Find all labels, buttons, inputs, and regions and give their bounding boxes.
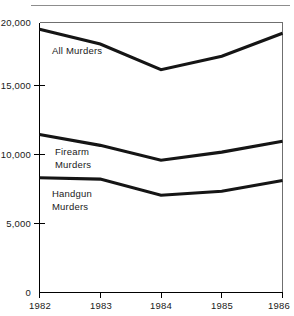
firearm-murders-label-line1: Firearm <box>55 146 89 157</box>
ytick-label-10000: 10,000 <box>1 149 31 160</box>
ytick-label-0: 0 <box>26 287 31 298</box>
handgun-murders-label-line2: Murders <box>52 201 88 212</box>
xtick-label-1984: 1984 <box>150 300 172 311</box>
firearm-murders-label-line2: Murders <box>55 159 91 170</box>
chart-canvas: 20,000 15,000 10,000 5,000 0 1982 1983 1… <box>0 0 294 316</box>
ytick-label-15000: 15,000 <box>1 80 31 91</box>
xtick-label-1982: 1982 <box>29 300 51 311</box>
xtick-label-1983: 1983 <box>90 300 112 311</box>
ytick-label-20000: 20,000 <box>1 17 31 28</box>
line-chart-figure: 20,000 15,000 10,000 5,000 0 1982 1983 1… <box>0 0 294 316</box>
xtick-label-1985: 1985 <box>211 300 233 311</box>
axes <box>40 23 283 293</box>
handgun-murders-label-line1: Handgun <box>52 188 92 199</box>
all-murders-label: All Murders <box>52 45 102 56</box>
plot-frame <box>40 23 283 293</box>
ytick-label-5000: 5,000 <box>6 218 31 229</box>
xtick-label-1986: 1986 <box>268 300 290 311</box>
